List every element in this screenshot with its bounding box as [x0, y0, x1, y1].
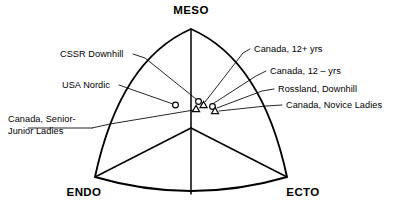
callout-labels-group: CSSR Downhill USA Nordic Canada, Senior-… — [8, 44, 382, 136]
vertex-label-meso: MESO — [173, 4, 208, 16]
leader-line-cssr-downhill — [133, 54, 196, 99]
callout-label-canada-novice-ladies: Canada, Novice Ladies — [286, 100, 382, 110]
callout-label-canada-senior-junior-line1: Canada, Senior- — [8, 114, 76, 124]
vertex-labels-group: MESO ENDO ECTO — [67, 4, 320, 198]
somatotype-triangle-chart: MESO ENDO ECTO CSSR Downhill USA Nordic … — [0, 0, 404, 216]
marker-usa-nordic[interactable] — [173, 102, 179, 108]
leader-line-usa-nordic — [119, 85, 173, 104]
vertex-label-ecto: ECTO — [286, 186, 319, 198]
axis-line-endo — [95, 128, 191, 177]
marker-canada-senior-junior-ladies[interactable] — [192, 105, 199, 111]
leader-line-canada-senior-junior — [92, 110, 194, 128]
leader-line-canada-novice-ladies — [219, 105, 282, 111]
callout-label-canada-senior-junior-line2: Junior Ladies — [8, 126, 64, 136]
marker-cssr-downhill[interactable] — [196, 99, 202, 105]
callout-label-cssr-downhill: CSSR Downhill — [60, 49, 123, 59]
callout-label-canada-12-plus: Canada, 12+ yrs — [254, 44, 323, 54]
data-markers-group — [173, 99, 219, 114]
vertex-label-endo: ENDO — [67, 186, 102, 198]
somatotype-figure: MESO ENDO ECTO CSSR Downhill USA Nordic … — [0, 0, 404, 216]
callout-label-canada-12-minus: Canada, 12 – yrs — [270, 66, 341, 76]
axis-line-ecto — [191, 128, 287, 177]
leader-line-rossland-downhill — [217, 89, 274, 108]
callout-label-usa-nordic: USA Nordic — [62, 80, 110, 90]
callout-label-rossland-downhill: Rossland, Downhill — [278, 84, 357, 94]
